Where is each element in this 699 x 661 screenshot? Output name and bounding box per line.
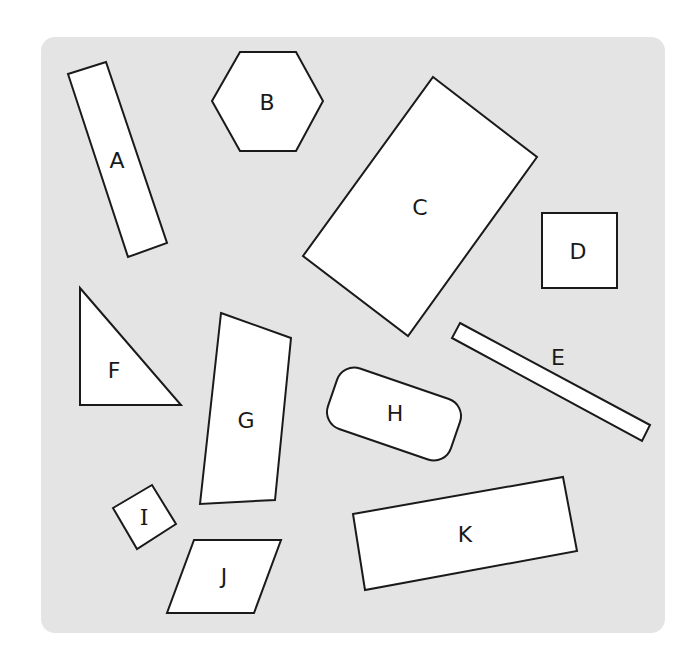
shapes-diagram: ABCDEFGHIJK bbox=[0, 0, 699, 661]
shape-label: F bbox=[108, 358, 121, 383]
shape-label: G bbox=[237, 408, 254, 433]
shape-label: K bbox=[458, 522, 473, 547]
shape-label: D bbox=[570, 239, 587, 264]
shape-label: A bbox=[109, 148, 124, 173]
shape-label: E bbox=[551, 345, 565, 370]
shape-label: H bbox=[387, 401, 404, 426]
shape-label: C bbox=[412, 195, 427, 220]
shape-label: I bbox=[140, 505, 149, 530]
diagram-canvas: ABCDEFGHIJK bbox=[0, 0, 699, 661]
shape-label: B bbox=[259, 90, 274, 115]
shape-d: D bbox=[542, 213, 617, 288]
shape-label: J bbox=[219, 564, 228, 589]
